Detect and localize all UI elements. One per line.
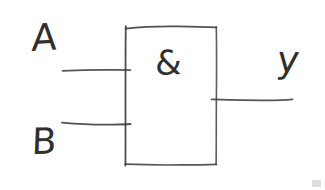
- input-b-lead: [62, 123, 131, 125]
- input-b-label: B: [31, 123, 57, 160]
- and-operator-symbol: &: [155, 45, 182, 80]
- corner-smudge-artifact: [312, 180, 321, 187]
- input-a-label: A: [31, 18, 57, 57]
- sketch-canvas: A B & y: [0, 0, 325, 190]
- input-a-lead: [63, 70, 131, 71]
- output-y-label: y: [275, 41, 301, 78]
- output-y-lead: [212, 99, 293, 100]
